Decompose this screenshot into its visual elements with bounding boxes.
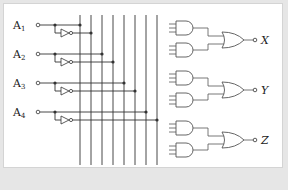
and-gate-icon: [176, 43, 193, 57]
or-gate-icon: [222, 32, 244, 48]
and-to-or-wire: [193, 78, 225, 86]
output-terminal-icon: [253, 88, 257, 92]
input-terminal-icon: [36, 110, 40, 114]
inverter-icon: [61, 87, 69, 95]
and-gate-icon: [176, 21, 193, 35]
and-gate-icon: [176, 121, 193, 135]
logic-circuit-diagram: A1A2A3A4 XYZ: [0, 0, 288, 190]
and-gate-icon: [176, 71, 193, 85]
input-terminal-icon: [36, 81, 40, 85]
inputs-layer: A1A2A3A4: [12, 19, 159, 124]
input-label: A1: [12, 19, 25, 33]
inverter-bubble-icon: [69, 89, 72, 92]
gates-layer: XYZ: [169, 21, 270, 157]
inverter-icon: [61, 58, 69, 66]
output-label: Z: [260, 134, 269, 147]
or-gate-icon: [222, 132, 244, 148]
and-gate-icon: [176, 143, 193, 157]
output-label: X: [260, 34, 270, 47]
inverter-bubble-icon: [69, 118, 72, 121]
and-to-or-wire: [193, 94, 225, 100]
input-terminal-icon: [36, 23, 40, 27]
inverter-bubble-icon: [69, 31, 72, 34]
inverter-icon: [61, 116, 69, 124]
and-to-or-wire: [193, 128, 225, 136]
input-label: A4: [12, 106, 26, 120]
input-terminal-icon: [36, 52, 40, 56]
output-label: Y: [261, 84, 270, 97]
output-terminal-icon: [253, 38, 257, 42]
and-to-or-wire: [193, 144, 225, 150]
input-label: A3: [12, 77, 25, 91]
and-gate-icon: [176, 93, 193, 107]
inverter-bubble-icon: [69, 60, 72, 63]
inverter-icon: [61, 29, 69, 37]
output-terminal-icon: [253, 138, 257, 142]
or-gate-icon: [222, 82, 244, 98]
and-to-or-wire: [193, 28, 225, 36]
and-to-or-wire: [193, 44, 225, 50]
input-label: A2: [12, 48, 25, 62]
bus-layer: [80, 15, 157, 165]
